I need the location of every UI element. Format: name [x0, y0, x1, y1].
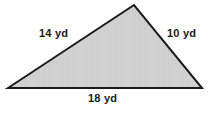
left-side-length-label: 14 yd	[39, 28, 68, 39]
triangle-polygon	[8, 5, 202, 88]
bottom-side-length-label: 18 yd	[88, 93, 117, 104]
triangle-figure: 14 yd 10 yd 18 yd	[0, 0, 212, 115]
right-side-length-label: 10 yd	[167, 28, 196, 39]
